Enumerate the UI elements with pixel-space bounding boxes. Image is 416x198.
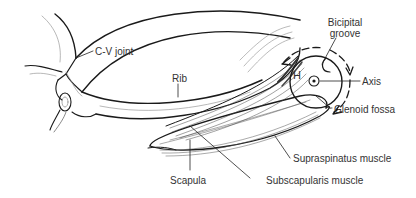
rib — [76, 11, 300, 119]
label-rib: Rib — [172, 73, 187, 84]
label-cv-joint: C-V joint — [95, 46, 133, 57]
label-axis: Axis — [362, 76, 381, 87]
label-subscapularis: Subscapularis muscle — [266, 175, 363, 186]
vertebra — [25, 14, 96, 132]
label-bicipital-groove: Bicipital groove — [325, 17, 365, 39]
label-humeral-head: H — [293, 70, 301, 81]
label-glenoid-fossa: Glenoid fossa — [334, 104, 395, 115]
label-supraspinatus: Supraspinatus muscle — [293, 153, 391, 164]
label-scapula: Scapula — [170, 175, 206, 186]
label-bicipital-line1: Bicipital — [328, 17, 362, 28]
label-bicipital-line2: groove — [330, 28, 361, 39]
